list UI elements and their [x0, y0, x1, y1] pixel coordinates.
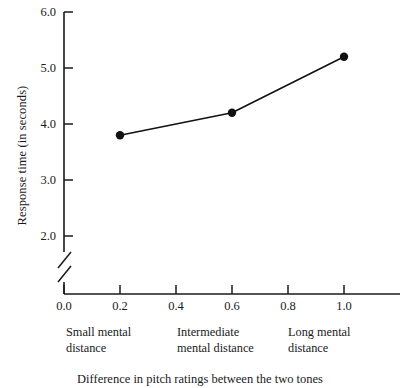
category-label-intermediate-mental-distance: Intermediate mental distance	[177, 325, 295, 356]
category-label-small-mental-distance: Small mental distance	[66, 325, 184, 356]
data-point-small-mental-distance	[116, 131, 124, 139]
category-label-line-2: distance	[288, 341, 400, 357]
category-label-line-1: Small mental	[66, 325, 184, 341]
y-axis-break-slash-upper	[58, 252, 71, 268]
x-tick-label-0.0: 0.0	[44, 300, 84, 313]
x-tick-label-0.4: 0.4	[156, 300, 196, 313]
figure-caption: Difference in pitch ratings between the …	[0, 372, 400, 388]
category-label-line-2: distance	[66, 341, 184, 357]
category-label-line-1: Intermediate	[177, 325, 295, 341]
x-tick-label-1.0: 1.0	[324, 300, 364, 313]
category-label-long-mental-distance: Long mental distance	[288, 325, 400, 356]
y-axis-break-slash-lower	[58, 266, 71, 282]
x-tick-label-0.6: 0.6	[212, 300, 252, 313]
category-label-line-1: Long mental	[288, 325, 400, 341]
category-label-line-2: mental distance	[177, 341, 295, 357]
data-point-intermediate-mental-distance	[228, 109, 236, 117]
data-line-response-time	[120, 57, 344, 135]
data-point-long-mental-distance	[340, 53, 348, 61]
x-tick-label-0.8: 0.8	[268, 300, 308, 313]
x-tick-label-0.2: 0.2	[100, 300, 140, 313]
